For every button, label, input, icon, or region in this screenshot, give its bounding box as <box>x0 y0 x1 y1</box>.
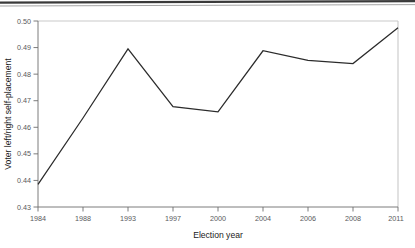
x-tick-label-4: 2000 <box>210 214 226 223</box>
y-tick-label-6: 0.44 <box>17 176 31 185</box>
x-tick-label-7: 2008 <box>345 214 361 223</box>
plot-area-background <box>38 21 398 207</box>
x-tick-label-2: 1993 <box>120 214 136 223</box>
x-tick-label-6: 2006 <box>300 214 316 223</box>
x-tick-label-1: 1988 <box>75 214 91 223</box>
chart-figure: 0.50 0.49 0.48 0.47 0.46 0.45 0.44 0.43 … <box>0 0 415 248</box>
y-axis-title: Voter left/right self-placement <box>3 58 13 170</box>
y-tick-label-0: 0.50 <box>17 17 31 26</box>
x-tick-label-3: 1997 <box>165 214 181 223</box>
y-tick-label-2: 0.48 <box>17 70 31 79</box>
x-tick-label-5: 2004 <box>255 214 271 223</box>
x-tick-label-0: 1984 <box>30 214 46 223</box>
y-tick-label-5: 0.45 <box>17 149 31 158</box>
y-axis-ticks <box>34 21 39 207</box>
y-tick-label-3: 0.47 <box>17 96 31 105</box>
y-tick-label-4: 0.46 <box>17 123 31 132</box>
x-axis-ticks <box>38 207 398 212</box>
x-axis-title: Election year <box>193 230 243 240</box>
line-chart: 0.50 0.49 0.48 0.47 0.46 0.45 0.44 0.43 … <box>0 0 415 248</box>
x-tick-label-8: 2011 <box>388 214 403 223</box>
y-tick-label-1: 0.49 <box>17 43 31 52</box>
y-tick-label-7: 0.43 <box>17 203 31 212</box>
